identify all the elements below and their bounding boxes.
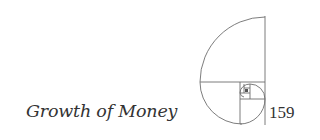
section-title: Growth of Money bbox=[26, 101, 177, 121]
spiral-arc bbox=[250, 84, 265, 99]
spiral-arc bbox=[240, 93, 244, 97]
spiral-arc bbox=[200, 17, 265, 82]
page-number: 159 bbox=[269, 103, 295, 123]
spiral-arc bbox=[240, 99, 265, 124]
spiral-arc bbox=[200, 82, 242, 124]
spiral-center-mark bbox=[245, 89, 248, 92]
